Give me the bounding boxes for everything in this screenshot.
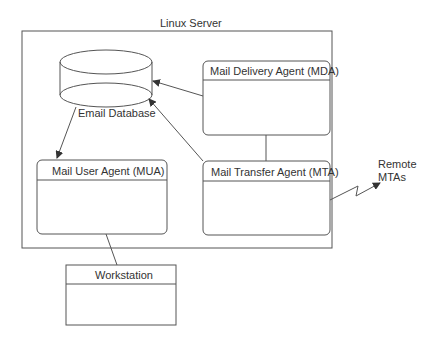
linux-server-container	[22, 31, 332, 248]
mua-workstation-connector	[106, 234, 117, 265]
mua-label: Mail User Agent (MUA)	[52, 165, 164, 177]
mta-label: Mail Transfer Agent (MTA)	[211, 166, 339, 178]
workstation-label: Workstation	[95, 269, 153, 281]
mta-to-database-arrow	[149, 99, 203, 161]
remote-mtas-label-line2: MTAs	[378, 171, 406, 183]
remote-mtas-label-line1: Remote	[378, 158, 417, 170]
mda-label: Mail Delivery Agent (MDA)	[210, 65, 339, 77]
mda-to-database-arrow	[153, 81, 203, 96]
email-database-cylinder	[60, 50, 152, 107]
database-to-mua-arrow	[57, 107, 76, 158]
linux-server-label: Linux Server	[160, 17, 222, 29]
mta-to-remote-lightning-arrow	[330, 183, 380, 200]
email-database-label: Email Database	[78, 107, 156, 119]
